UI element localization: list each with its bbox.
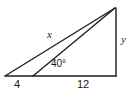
side-label-y: y (121, 34, 126, 45)
triangle-diagram (0, 0, 135, 96)
side-label-x: x (47, 29, 52, 40)
geometry-figure: x y 40° 4 12 (0, 0, 135, 96)
angle-label-40: 40° (51, 59, 66, 69)
cevian-line (33, 8, 115, 76)
base-segment-label-12: 12 (77, 79, 89, 90)
base-segment-label-4: 4 (14, 79, 20, 90)
